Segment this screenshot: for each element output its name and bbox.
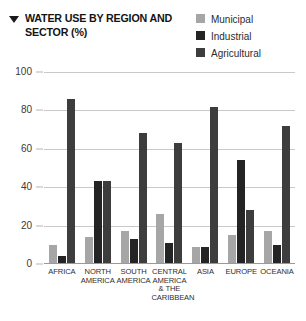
x-axis-tick-label: OCEANIA	[259, 268, 295, 277]
bar-agricultural	[103, 181, 111, 264]
legend-item-municipal: Municipal	[196, 11, 300, 26]
bar-municipal	[192, 247, 200, 264]
bar-industrial	[94, 181, 102, 264]
y-axis-tick-label: 80	[21, 105, 32, 115]
bar-industrial	[273, 245, 281, 264]
bar-agricultural	[174, 143, 182, 264]
bar-group	[228, 72, 254, 264]
y-axis-tick-label: 40	[21, 182, 32, 192]
y-axis: 020406080100	[0, 72, 40, 264]
bar-agricultural	[67, 99, 75, 264]
y-axis-tick-label: 100	[15, 67, 32, 77]
bar-municipal	[228, 235, 236, 264]
legend-item-industrial: Industrial	[196, 28, 300, 43]
legend-swatch-agricultural	[196, 48, 205, 57]
legend-swatch-municipal	[196, 14, 205, 23]
x-axis-tick-label: ASIA	[187, 268, 223, 277]
y-axis-tick-mark	[36, 72, 43, 73]
bar-industrial	[130, 239, 138, 264]
bar-group	[156, 72, 182, 264]
y-axis-tick-mark	[36, 187, 43, 188]
bar-industrial	[237, 160, 245, 264]
x-axis-tick-label: AFRICA	[44, 268, 80, 277]
x-axis-tick-label: NORTHAMERICA	[80, 268, 116, 285]
bar-agricultural	[210, 107, 218, 264]
bar-group	[264, 72, 290, 264]
legend-label-industrial: Industrial	[211, 30, 251, 42]
bar-municipal	[121, 231, 129, 264]
bar-groups	[44, 72, 295, 264]
x-axis-labels: AFRICANORTHAMERICASOUTHAMERICACENTRALAME…	[44, 268, 295, 321]
y-axis-tick-mark	[36, 110, 43, 111]
legend-label-municipal: Municipal	[211, 13, 253, 25]
x-axis-tick-label: CENTRALAMERICA& THECARIBBEAN	[151, 268, 187, 302]
bar-group	[192, 72, 218, 264]
chart-title-text: WATER USE BY REGION AND SECTOR (%)	[25, 12, 173, 39]
chart-legend: Municipal Industrial Agricultural	[196, 11, 300, 62]
bar-industrial	[201, 247, 209, 264]
bar-agricultural	[139, 133, 147, 264]
bar-agricultural	[246, 210, 254, 264]
axis-baseline	[44, 263, 295, 264]
y-axis-tick-label: 60	[21, 144, 32, 154]
bar-municipal	[85, 237, 93, 264]
x-axis-tick-label: EUROPE	[223, 268, 259, 277]
legend-label-agricultural: Agricultural	[211, 47, 261, 59]
y-axis-tick-label: 20	[21, 221, 32, 231]
legend-swatch-industrial	[196, 31, 205, 40]
bar-municipal	[49, 245, 57, 264]
page-title: WATER USE BY REGION AND SECTOR (%)	[9, 12, 184, 39]
bar-group	[121, 72, 147, 264]
y-axis-tick-mark	[36, 148, 43, 149]
y-axis-tick-mark	[36, 225, 43, 226]
plot-area	[44, 72, 295, 264]
bar-group	[85, 72, 111, 264]
bar-agricultural	[282, 126, 290, 264]
chart-header: WATER USE BY REGION AND SECTOR (%) Munic…	[0, 0, 306, 58]
y-axis-tick-mark	[36, 264, 43, 265]
bar-municipal	[264, 231, 272, 264]
bar-municipal	[156, 214, 164, 264]
y-axis-tick-label: 0	[26, 259, 32, 269]
triangle-down-icon	[9, 16, 19, 23]
bar-industrial	[165, 243, 173, 264]
x-axis-tick-label: SOUTHAMERICA	[116, 268, 152, 285]
bar-group	[49, 72, 75, 264]
legend-item-agricultural: Agricultural	[196, 45, 300, 60]
